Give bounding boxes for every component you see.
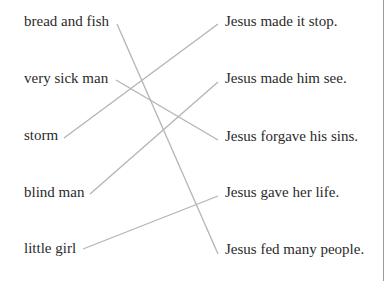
right-item-made-him-see: Jesus made him see. [225,69,347,87]
line-little-girl [83,196,218,249]
right-item-fed-many-people: Jesus fed many people. [225,240,364,258]
left-item-bread-and-fish: bread and fish [24,12,109,30]
line-very-sick-man [116,80,218,140]
left-item-blind-man: blind man [24,183,84,201]
left-item-storm: storm [24,126,58,144]
right-item-forgave-sins: Jesus forgave his sins. [225,127,358,145]
line-blind-man [90,82,218,194]
line-bread-and-fish [117,24,218,254]
page-border [383,0,384,281]
right-item-gave-her-life: Jesus gave her life. [225,183,339,201]
left-item-little-girl: little girl [24,239,76,257]
right-item-made-it-stop: Jesus made it stop. [225,12,338,30]
left-item-very-sick-man: very sick man [24,69,108,87]
